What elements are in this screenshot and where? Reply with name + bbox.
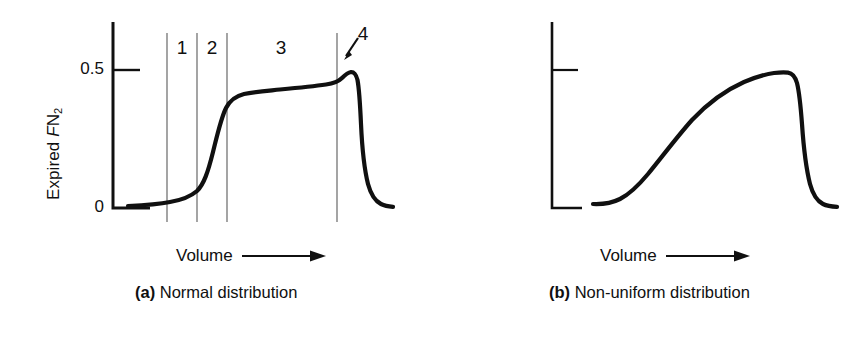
y-axis-label-subscript-element: N [44, 114, 63, 126]
y-axis-label: Expired FN2 [44, 108, 64, 200]
y-axis-spine [113, 22, 150, 208]
right-arrow-icon [666, 249, 750, 263]
washout-curve-normal [128, 72, 393, 207]
panel-a-caption-text: Normal distribution [155, 283, 297, 301]
y-axis-label-subscript-number: 2 [52, 108, 64, 114]
y-axis-label-prefix: Expired [44, 137, 63, 200]
panel-b-caption-tag: (b) [549, 283, 570, 301]
x-axis-label-group-a: Volume [176, 243, 326, 269]
y-axis-label-symbol: F [44, 126, 63, 136]
x-axis-label: Volume [176, 246, 233, 266]
panel-a-caption: (a) Normal distribution [135, 283, 297, 302]
phase-marker-3: 3 [268, 37, 294, 59]
phase-marker-1: 1 [169, 37, 195, 59]
washout-curve-non-uniform [593, 72, 837, 206]
panel-normal-distribution: Expired FN2 0.5 0 1 2 3 4 Volume (a) Nor… [0, 0, 430, 345]
figure-container: Expired FN2 0.5 0 1 2 3 4 Volume (a) Nor… [0, 0, 861, 345]
x-axis-label: Volume [600, 246, 657, 266]
x-axis-label-group-b: Volume [600, 243, 750, 269]
panel-non-uniform-distribution: Volume (b) Non-uniform distribution [430, 0, 861, 345]
phase-marker-4: 4 [350, 23, 376, 45]
panel-b-caption-text: Non-uniform distribution [570, 283, 750, 301]
panel-b-caption: (b) Non-uniform distribution [549, 283, 750, 302]
y-tick-label-05: 0.5 [56, 59, 104, 79]
right-arrow-icon [242, 249, 326, 263]
y-tick-label-0: 0 [56, 197, 104, 217]
phase-marker-2: 2 [199, 37, 225, 59]
y-axis-spine [552, 22, 582, 208]
panel-a-caption-tag: (a) [135, 283, 155, 301]
